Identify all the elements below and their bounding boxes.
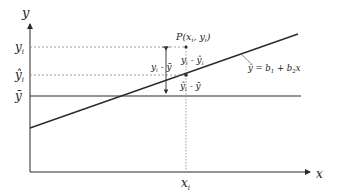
fitted-point [184, 73, 188, 77]
yhat-tick-label: ŷi [14, 68, 24, 84]
ybar-tick-label: ȳ [14, 89, 22, 103]
point-p-label: P(xi, yi) [175, 31, 211, 43]
y-axis-label: y [21, 5, 30, 20]
regression-line [30, 34, 298, 128]
xi-tick-label: xi [181, 176, 190, 192]
x-axis-label: x [316, 167, 323, 181]
residual-label: yi - ŷi [180, 55, 204, 66]
total-deviation-label: yi - ȳ [150, 62, 173, 73]
regression-equation: ŷ = b1 + b2x [247, 63, 301, 74]
equation-leader [242, 55, 250, 63]
data-point-p [184, 45, 187, 48]
regression-diagram: y x yi ŷi ȳ xi P(xi, yi) yi - ȳ yi - ŷi … [0, 0, 339, 195]
yi-tick-label: yi [14, 40, 24, 56]
explained-deviation-label: ŷi - ȳ [179, 81, 202, 92]
